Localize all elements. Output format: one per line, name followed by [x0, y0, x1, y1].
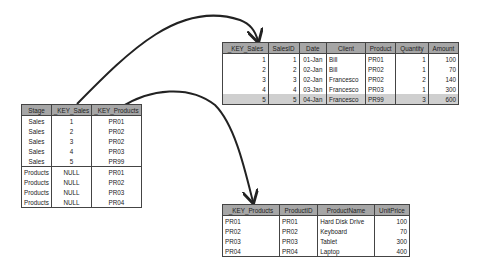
cell: Products — [22, 197, 52, 208]
cell: NULL — [51, 177, 91, 187]
cell: 4 — [268, 84, 299, 94]
table-row: PR01PR01Hard Disk Drive100 — [223, 216, 410, 227]
table-row: 3302-JanFrancescoPR022140 — [223, 74, 459, 84]
cell: 03-Jan — [299, 84, 327, 94]
cell: NULL — [51, 187, 91, 197]
cell: 1 — [396, 54, 428, 65]
cell: Sales — [22, 156, 52, 167]
cell: PR03 — [223, 236, 280, 246]
cell: 5 — [223, 94, 269, 105]
cell: PR02 — [366, 64, 396, 74]
table-row: Sales4PR03 — [22, 146, 142, 156]
table-row: ProductsNULLPR02 — [22, 177, 142, 187]
cell: 1 — [268, 54, 299, 65]
cell: 2 — [51, 126, 91, 136]
cell: Products — [22, 167, 52, 178]
cell: PR02 — [223, 226, 280, 236]
cell: Sales — [22, 146, 52, 156]
cell: PR99 — [92, 156, 141, 167]
col-product-id: ProductID — [280, 205, 318, 216]
cell: 300 — [374, 236, 409, 246]
table-row: 4403-JanFrancescoPR031300 — [223, 84, 459, 94]
cell: 600 — [428, 94, 458, 105]
cell: 02-Jan — [299, 74, 327, 84]
cell: PR04 — [223, 246, 280, 257]
table-row: Sales2PR02 — [22, 126, 142, 136]
col-quantity: Quantity — [396, 43, 428, 54]
cell: 4 — [223, 84, 269, 94]
bridge-table: Stage _KEY_Sales _KEY_Products Sales1PR0… — [21, 104, 142, 208]
cell: 2 — [268, 64, 299, 74]
col-key-sales: _KEY_Sales — [51, 105, 91, 116]
col-amount: Amount — [428, 43, 458, 54]
table-row: PR02PR02Keyboard70 — [223, 226, 410, 236]
cell: 100 — [374, 216, 409, 227]
cell: Products — [22, 177, 52, 187]
cell: NULL — [51, 167, 91, 178]
cell: PR04 — [92, 197, 141, 208]
cell: 3 — [223, 74, 269, 84]
cell: Francesco — [327, 74, 366, 84]
cell: Sales — [22, 116, 52, 127]
cell: Tablet — [318, 236, 375, 246]
col-client: Client — [327, 43, 366, 54]
cell: 2 — [396, 74, 428, 84]
col-key-products: _KEY_Products — [223, 205, 280, 216]
cell: 70 — [374, 226, 409, 236]
col-date: Date — [299, 43, 327, 54]
col-stage: Stage — [22, 105, 52, 116]
cell: 70 — [428, 64, 458, 74]
cell: 400 — [374, 246, 409, 257]
col-sales-id: SalesID — [268, 43, 299, 54]
cell: 02-Jan — [299, 64, 327, 74]
cell: PR04 — [280, 246, 318, 257]
cell: PR03 — [92, 146, 141, 156]
cell: 2 — [223, 64, 269, 74]
table-row: PR03PR03Tablet300 — [223, 236, 410, 246]
cell: PR02 — [92, 126, 141, 136]
table-row: ProductsNULLPR01 — [22, 167, 142, 178]
cell: 5 — [268, 94, 299, 105]
col-unit-price: UnitPrice — [374, 205, 409, 216]
table-row: 1101-JanBillPR011100 — [223, 54, 459, 65]
cell: 4 — [51, 146, 91, 156]
cell: Francesco — [327, 84, 366, 94]
cell: 3 — [51, 136, 91, 146]
cell: Francesco — [327, 94, 366, 105]
cell: PR01 — [280, 216, 318, 227]
cell: PR03 — [366, 84, 396, 94]
cell: PR02 — [92, 136, 141, 146]
cell: 3 — [396, 94, 428, 105]
cell: Bill — [327, 54, 366, 65]
sales-table: _KEY_Sales SalesID Date Client Product Q… — [222, 42, 459, 105]
table-row: ProductsNULLPR04 — [22, 197, 142, 208]
cell: 1 — [396, 84, 428, 94]
table-row: ProductsNULLPR03 — [22, 187, 142, 197]
cell: Laptop — [318, 246, 375, 257]
cell: 04-Jan — [299, 94, 327, 105]
table-row: Sales3PR02 — [22, 136, 142, 146]
cell: PR02 — [92, 177, 141, 187]
cell: 140 — [428, 74, 458, 84]
cell: PR01 — [92, 167, 141, 178]
products-table: _KEY_Products ProductID ProductName Unit… — [222, 204, 410, 257]
cell: 5 — [51, 156, 91, 167]
cell: 1 — [51, 116, 91, 127]
cell: Sales — [22, 126, 52, 136]
cell: PR99 — [366, 94, 396, 105]
cell: 3 — [268, 74, 299, 84]
cell: PR02 — [366, 74, 396, 84]
cell: 01-Jan — [299, 54, 327, 65]
cell: 1 — [223, 54, 269, 65]
cell: PR01 — [223, 216, 280, 227]
cell: 1 — [396, 64, 428, 74]
col-product-name: ProductName — [318, 205, 375, 216]
cell: 100 — [428, 54, 458, 65]
cell: NULL — [51, 197, 91, 208]
cell: 300 — [428, 84, 458, 94]
cell: Keyboard — [318, 226, 375, 236]
cell: PR03 — [92, 187, 141, 197]
col-key-products: _KEY_Products — [92, 105, 141, 116]
cell: PR02 — [280, 226, 318, 236]
col-product: Product — [366, 43, 396, 54]
